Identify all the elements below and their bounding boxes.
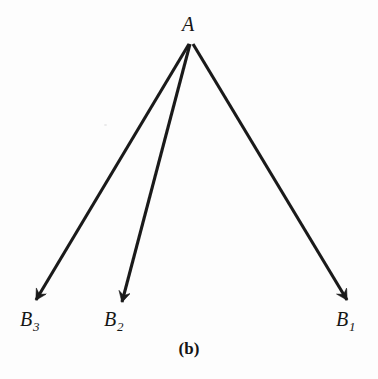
node-label-b2-text: B — [104, 308, 116, 330]
node-label-b3: B3 — [20, 309, 39, 329]
figure-container: A B3 B2 B1 (b) — [0, 0, 378, 379]
figure-caption: (b) — [0, 340, 378, 357]
node-label-b2-subscript: 2 — [117, 319, 124, 334]
node-label-b1-text: B — [336, 308, 348, 330]
node-label-b1: B1 — [336, 309, 355, 329]
scan-artifact-speck — [104, 124, 107, 126]
node-label-a-text: A — [182, 13, 194, 35]
node-label-b1-subscript: 1 — [349, 319, 356, 334]
arrow-a-to-b1 — [193, 44, 347, 300]
node-label-b3-subscript: 3 — [33, 319, 40, 334]
node-label-b2: B2 — [104, 309, 123, 329]
arrow-a-to-b3 — [36, 44, 189, 300]
arrow-group — [36, 44, 347, 302]
diagram-canvas — [0, 0, 378, 379]
node-label-a: A — [182, 14, 194, 34]
node-label-b3-text: B — [20, 308, 32, 330]
arrow-a-to-b2 — [122, 44, 190, 302]
